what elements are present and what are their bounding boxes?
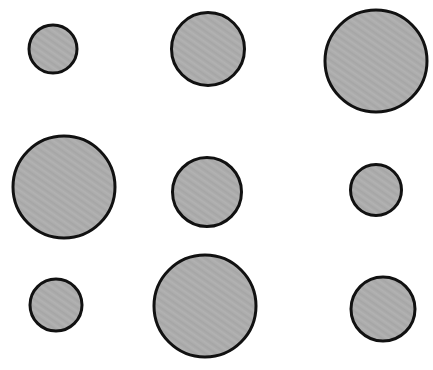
stimulus-canvas (0, 0, 433, 370)
circle-r3c2 (154, 255, 256, 357)
circle-r3c1 (30, 279, 82, 331)
circle-r3c3 (351, 277, 415, 341)
circles-plot (0, 0, 433, 370)
circle-r1c2 (172, 13, 245, 86)
circle-r2c2 (173, 158, 242, 227)
circle-r1c1 (29, 25, 77, 73)
circle-r2c1 (13, 136, 115, 238)
circle-r2c3 (351, 165, 402, 216)
circle-r1c3 (325, 10, 427, 112)
